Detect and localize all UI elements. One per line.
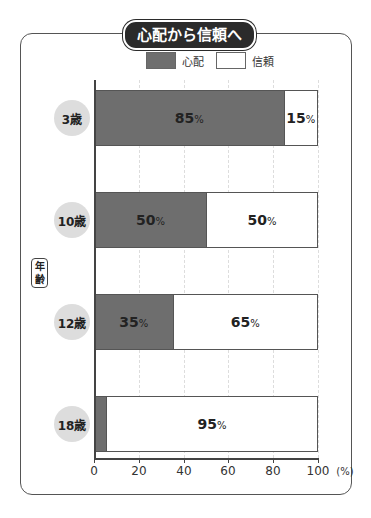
value-label: 50% <box>136 212 165 228</box>
x-tick-label: 80 <box>265 464 280 478</box>
age-badge: 18歳 <box>54 406 90 442</box>
x-tick-label: 100 <box>307 464 330 478</box>
x-tick <box>139 458 140 463</box>
y-axis <box>94 80 96 458</box>
x-tick-label: 40 <box>176 464 191 478</box>
bar-segment-trust: 15% <box>284 91 317 145</box>
x-tick <box>318 458 319 463</box>
bar-segment-trust: 95% <box>106 397 317 451</box>
legend-swatch-trust <box>216 52 246 69</box>
x-tick-label: 20 <box>131 464 146 478</box>
gridline <box>318 80 319 458</box>
x-tick <box>228 458 229 463</box>
legend-label-worry: 心配 <box>182 53 204 69</box>
value-label: 65% <box>231 314 260 330</box>
x-tick <box>184 458 185 463</box>
age-badge: 12歳 <box>54 304 90 340</box>
bar-segment-trust: 65% <box>173 295 317 349</box>
legend-label-trust: 信頼 <box>252 53 274 69</box>
value-label: 50% <box>248 212 277 228</box>
x-unit-label: (%) <box>336 466 353 477</box>
bar-segment-worry: 85% <box>95 91 284 145</box>
bar-row: 50% 50% <box>94 192 318 248</box>
legend: 心配 信頼 <box>146 52 286 69</box>
value-label: 95% <box>198 416 227 432</box>
bar-row: 35% 65% <box>94 294 318 350</box>
age-badge: 10歳 <box>54 202 90 238</box>
chart-title: 心配から信頼へ <box>123 20 256 50</box>
x-axis <box>94 458 318 460</box>
bar-segment-trust: 50% <box>206 193 317 247</box>
x-tick-label: 0 <box>90 464 98 478</box>
x-tick <box>94 458 95 463</box>
bar-segment-worry: -5% <box>95 397 106 451</box>
x-tick <box>273 458 274 463</box>
legend-swatch-worry <box>146 52 176 69</box>
value-label: 85% <box>175 110 204 126</box>
x-tick-label: 60 <box>220 464 235 478</box>
y-axis-label: 年齢 <box>31 258 48 288</box>
bar-segment-worry: 35% <box>95 295 173 349</box>
bar-row: 85% 15% <box>94 90 318 146</box>
age-badge: 3歳 <box>54 100 90 136</box>
value-label: 35% <box>119 314 148 330</box>
bar-segment-worry: 50% <box>95 193 206 247</box>
value-label: 15% <box>286 110 315 126</box>
bar-row: -5% 95% <box>94 396 318 452</box>
